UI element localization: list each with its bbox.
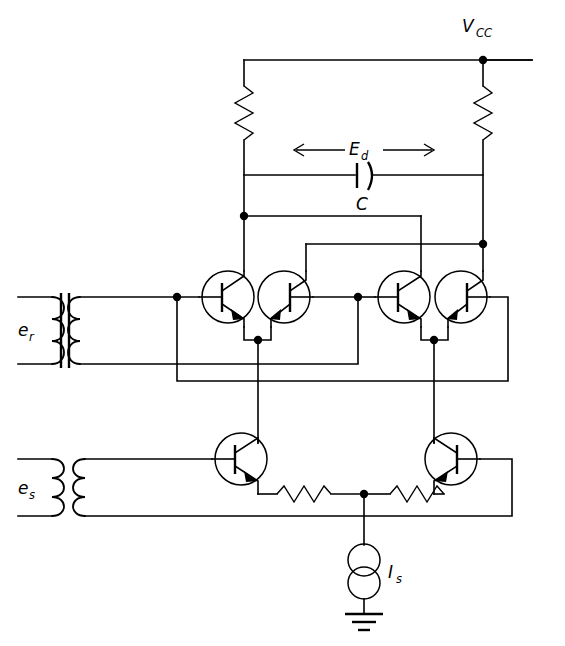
- transistor-q6: [425, 433, 480, 494]
- is-label-main: I: [388, 562, 393, 582]
- supply-rail-group: [244, 56, 532, 64]
- vcc-label-group: V CC: [462, 16, 492, 40]
- es-secondary-bottom-lead: [85, 459, 512, 516]
- q2-collector-lead: [290, 271, 306, 291]
- transformer-er: e r: [18, 293, 80, 368]
- q1-emitter-arrow: [231, 309, 245, 320]
- transistor-q1: [199, 271, 254, 327]
- q5-emitter-arrow: [244, 471, 258, 482]
- es-label-main: e: [18, 478, 28, 498]
- er-label-sub: r: [29, 330, 35, 344]
- collector-bus-group: [240, 212, 487, 271]
- q2-q3-base-return: [80, 297, 358, 364]
- vcc-label-sub: CC: [476, 26, 492, 40]
- vcc-label-main: V: [462, 16, 475, 36]
- q6-emitter-arrow: [434, 471, 448, 482]
- ed-label-main: E: [349, 139, 360, 159]
- transistor-q3: [375, 271, 430, 327]
- resistor-left-emitter-zigzag: [277, 486, 331, 502]
- q4-base-return: [177, 297, 508, 381]
- base-drive-group: [80, 293, 508, 381]
- transistor-q2: [258, 271, 313, 327]
- q2-emitter-arrow: [269, 309, 281, 320]
- resistor-left-zigzag: [235, 86, 253, 140]
- transistor-q4: [435, 271, 490, 327]
- capacitor-branch-group: [244, 162, 483, 190]
- tail-network-group: [258, 486, 444, 502]
- ed-annotation-group: E d C: [294, 139, 434, 214]
- transistor-q5: [212, 433, 267, 494]
- er-label-main: e: [18, 320, 28, 340]
- collector-load-resistor-left: [235, 60, 253, 216]
- is-label-sub: s: [396, 572, 402, 586]
- capacitor-plate-curved: [368, 162, 372, 190]
- es-label-sub: s: [29, 488, 35, 502]
- circuit-canvas: V CC E d C: [0, 0, 565, 646]
- q5-collector-lead: [235, 438, 258, 453]
- q4-emitter-arrow: [446, 309, 458, 320]
- ed-label-sub: d: [361, 149, 369, 163]
- q6-collector-lead: [434, 438, 457, 453]
- capacitor-label-c: C: [356, 194, 368, 214]
- upper-emitter-tie-group: [244, 327, 448, 443]
- current-source-circle-bottom: [348, 567, 380, 599]
- es-primary-coil: [52, 459, 64, 516]
- es-secondary-coil: [73, 459, 85, 516]
- current-source-is: I s: [348, 494, 402, 614]
- ground-symbol: [345, 614, 383, 630]
- circuit-schematic-figure: V CC E d C: [0, 0, 565, 646]
- q4-collector-lead: [467, 271, 483, 291]
- collector-load-resistor-right: [474, 60, 492, 244]
- q3-emitter-arrow: [407, 309, 421, 320]
- resistor-right-zigzag: [474, 86, 492, 140]
